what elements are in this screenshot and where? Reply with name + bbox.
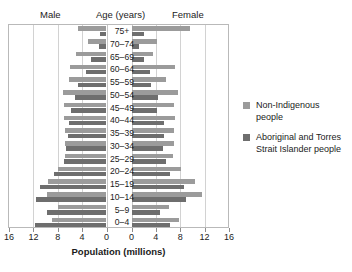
pyramid-row: 30–34 [9, 140, 228, 153]
legend-item: Aboriginal and Torres Strait Islander pe… [243, 132, 348, 155]
legend-label: Aboriginal and Torres Strait Islander pe… [256, 132, 348, 155]
pyramid-row: 40–44 [9, 114, 228, 127]
pyramid-row: 25–29 [9, 153, 228, 166]
axis-tick-label: 12 [200, 231, 210, 243]
bar-male-indigenous [35, 223, 107, 228]
legend-label: Non-Indigenous people [256, 100, 348, 123]
age-group-label: 35–39 [101, 127, 143, 140]
legend-swatch [243, 102, 250, 109]
female-side-label: Female [172, 8, 204, 22]
age-group-label: 55–59 [101, 76, 143, 89]
age-group-label: 50–54 [101, 89, 143, 102]
axis-tick-label: 4 [153, 231, 158, 243]
male-side-label: Male [40, 8, 61, 22]
axis-tick-label: 4 [80, 231, 85, 243]
bar-male-indigenous [47, 210, 107, 215]
legend-item: Non-Indigenous people [243, 100, 348, 123]
pyramid-row: 60–64 [9, 63, 228, 76]
age-group-label: 45–49 [101, 102, 143, 115]
pyramid-row: 65–69 [9, 51, 228, 64]
bar-male-non-indigenous [63, 90, 107, 95]
age-group-label: 5–9 [101, 204, 143, 217]
axis-tick-label: 16 [224, 231, 234, 243]
pyramid-rows: 75+70–7465–6960–6455–5950–5445–4940–4435… [9, 25, 228, 227]
age-group-label: 60–64 [101, 63, 143, 76]
plot-area: 75+70–7465–6960–6455–5950–5445–4940–4435… [8, 24, 229, 228]
pyramid-row: 55–59 [9, 76, 228, 89]
bar-male-non-indigenous [48, 179, 106, 184]
axis-tick-label: 16 [4, 231, 14, 243]
bar-male-indigenous [54, 172, 106, 177]
age-group-label: 40–44 [101, 114, 143, 127]
axis-tick-label: 0 [104, 231, 109, 243]
pyramid-row: 20–24 [9, 165, 228, 178]
age-column-label: Age (years) [96, 8, 145, 22]
legend-swatch [243, 134, 250, 141]
bar-male-indigenous [40, 185, 107, 190]
bar-male-non-indigenous [58, 205, 107, 210]
age-group-label: 20–24 [101, 165, 143, 178]
pyramid-row: 70–74 [9, 38, 228, 51]
chart-column-headers: Male Age (years) Female [0, 8, 228, 22]
pyramid-row: 75+ [9, 25, 228, 38]
chart-legend: Non-Indigenous peopleAboriginal and Torr… [243, 100, 348, 164]
pyramid-row: 15–19 [9, 178, 228, 191]
age-group-label: 25–29 [101, 153, 143, 166]
axis-tick-label: 8 [55, 231, 60, 243]
age-group-label: 30–34 [101, 140, 143, 153]
x-axis-title: Population (millions) [8, 246, 229, 257]
age-group-label: 75+ [101, 25, 143, 38]
age-group-label: 15–19 [101, 178, 143, 191]
bar-male-indigenous [36, 197, 107, 202]
axis-tick-label: 12 [28, 231, 38, 243]
bar-male-non-indigenous [47, 192, 107, 197]
population-pyramid-chart: Male Age (years) Female 75+70–7465–6960–… [0, 0, 352, 272]
pyramid-row: 45–49 [9, 102, 228, 115]
pyramid-row: 5–9 [9, 204, 228, 217]
pyramid-row: 50–54 [9, 89, 228, 102]
age-group-label: 10–14 [101, 191, 143, 204]
x-axis: 16128400481216 [8, 228, 229, 244]
axis-tick-label: 0 [129, 231, 134, 243]
age-group-label: 70–74 [101, 38, 143, 51]
age-group-label: 65–69 [101, 51, 143, 64]
axis-tick-label: 8 [178, 231, 183, 243]
bar-male-non-indigenous [52, 218, 107, 223]
pyramid-row: 35–39 [9, 127, 228, 140]
pyramid-row: 10–14 [9, 191, 228, 204]
bar-male-non-indigenous [58, 167, 107, 172]
